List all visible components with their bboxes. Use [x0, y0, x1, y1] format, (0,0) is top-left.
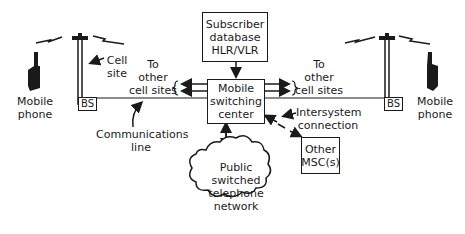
other-msc-box: Other MSC(s)	[301, 137, 340, 174]
comm-line-label: Communications line	[96, 128, 186, 154]
intersystem-line2: connection	[296, 119, 360, 132]
msc-line1: Mobile	[218, 82, 254, 95]
left-other-sites-label: To other cell sites	[128, 58, 178, 97]
cell-site-line2: site	[104, 67, 130, 80]
left-bs-box: BS	[78, 97, 97, 111]
left-other-sites-line1: To	[128, 58, 178, 71]
db-line2: database	[210, 31, 261, 44]
msc-line2: switching	[210, 95, 262, 108]
pstn-line2: switched	[196, 174, 276, 187]
right-phone-label: Mobile phone	[414, 95, 456, 121]
left-other-sites-line3: cell sites	[128, 84, 178, 97]
db-line1: Subscriber	[206, 18, 265, 31]
left-phone-label: Mobile phone	[14, 95, 56, 121]
right-other-sites-line2: other	[294, 71, 344, 84]
msc-line3: center	[218, 108, 253, 121]
right-tower-icon	[345, 33, 430, 99]
right-phone-line1: Mobile	[414, 95, 456, 108]
other-msc-line2: MSC(s)	[301, 156, 339, 169]
right-phone-line2: phone	[414, 108, 456, 121]
cellular-network-diagram: Subscriber database HLR/VLR Mobile switc…	[0, 0, 465, 234]
left-phone-line2: phone	[14, 108, 56, 121]
right-other-sites-line3: cell sites	[294, 84, 344, 97]
right-phone-icon	[427, 52, 438, 91]
intersystem-label: Intersystem connection	[296, 106, 360, 132]
pstn-line1: Public	[196, 161, 276, 174]
db-line3: HLR/VLR	[211, 44, 258, 57]
right-other-sites-label: To other cell sites	[294, 58, 344, 97]
other-msc-line1: Other	[305, 143, 336, 156]
pstn-line3: telephone	[196, 187, 276, 200]
left-other-sites-line2: other	[128, 71, 178, 84]
comm-line-line1: Communications	[96, 128, 186, 141]
left-phone-icon	[28, 52, 40, 91]
pstn-label: Public switched telephone network	[196, 161, 276, 213]
pstn-line4: network	[196, 200, 276, 213]
left-phone-line1: Mobile	[14, 95, 56, 108]
msc-box: Mobile switching center	[207, 79, 265, 124]
intersystem-line1: Intersystem	[296, 106, 360, 119]
cell-site-line1: Cell	[104, 54, 130, 67]
right-other-sites-line1: To	[294, 58, 344, 71]
right-bs-box: BS	[384, 97, 403, 111]
subscriber-database-box: Subscriber database HLR/VLR	[202, 12, 268, 62]
comm-line-line2: line	[96, 141, 186, 154]
cell-site-label: Cell site	[104, 54, 130, 80]
